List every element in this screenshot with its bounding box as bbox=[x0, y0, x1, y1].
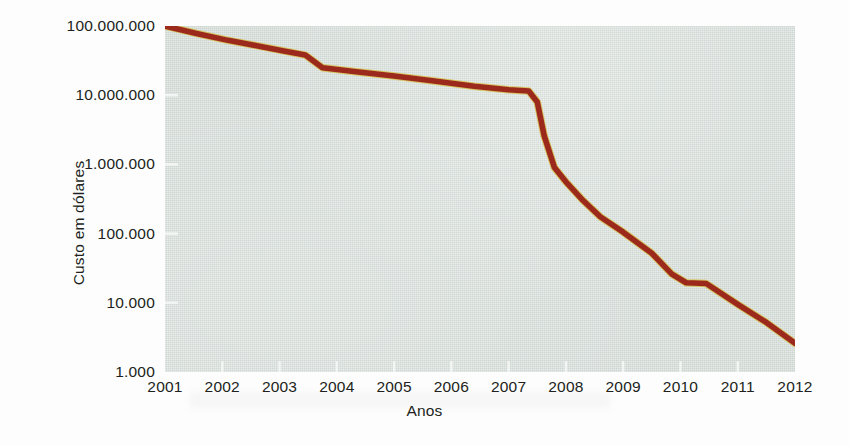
chart-line-svg bbox=[165, 26, 795, 372]
plot-area bbox=[165, 26, 795, 372]
y-axis-tick-label: 1.000.000 bbox=[84, 155, 155, 173]
y-axis-tick-marks bbox=[165, 95, 178, 303]
x-axis-tick-label: 2012 bbox=[777, 378, 812, 396]
x-axis-tick-label: 2011 bbox=[721, 378, 755, 396]
x-axis-tick-label: 2005 bbox=[376, 378, 411, 396]
x-axis-tick-label: 2004 bbox=[319, 378, 354, 396]
x-axis-tick-label: 2008 bbox=[548, 378, 583, 396]
y-axis-tick-label: 100.000.000 bbox=[67, 17, 155, 35]
chart-figure: Custo em dólares 100.000.00010.000.0001.… bbox=[0, 0, 849, 445]
x-axis-tick-label: 2010 bbox=[663, 378, 698, 396]
x-axis-tick-label: 2006 bbox=[434, 378, 469, 396]
y-axis-tick-labels: 100.000.00010.000.0001.000.000100.00010.… bbox=[0, 0, 155, 445]
y-axis-tick-label: 10.000 bbox=[106, 294, 155, 312]
y-axis-tick-label: 100.000 bbox=[98, 225, 155, 243]
series-line-cost-per-genome bbox=[165, 26, 795, 343]
x-axis-tick-label: 2007 bbox=[491, 378, 526, 396]
x-axis-tick-label: 2002 bbox=[205, 378, 240, 396]
x-axis-tick-label: 2001 bbox=[147, 378, 182, 396]
x-axis-tick-label: 2003 bbox=[262, 378, 297, 396]
series-line-highlight bbox=[165, 26, 795, 343]
y-axis-tick-label: 10.000.000 bbox=[75, 86, 155, 104]
x-axis-tick-label: 2009 bbox=[606, 378, 641, 396]
x-axis-tick-marks bbox=[222, 361, 737, 372]
x-axis-title: Anos bbox=[0, 402, 849, 420]
